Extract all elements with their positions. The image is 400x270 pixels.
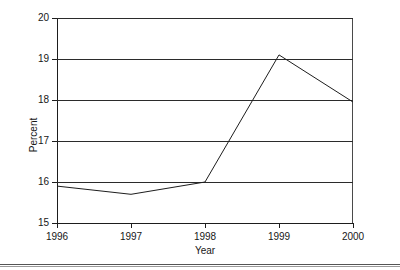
- y-tick-label-17: 17: [38, 136, 49, 146]
- x-tick-label-1996: 1996: [46, 232, 68, 242]
- line-chart-figure: Percent 151617181920 1996199719981999200…: [0, 0, 400, 270]
- series-percent-line: [57, 55, 353, 194]
- plot-area: 151617181920 19961997199819992000: [57, 18, 353, 223]
- x-tick-label-1999: 1999: [268, 232, 290, 242]
- x-tick-1997: [131, 223, 132, 228]
- x-tick-2000: [353, 223, 354, 228]
- y-tick-label-16: 16: [38, 177, 49, 187]
- y-tick-label-15: 15: [38, 218, 49, 228]
- y-tick-label-20: 20: [38, 13, 49, 23]
- x-tick-1996: [57, 223, 58, 228]
- y-tick-label-19: 19: [38, 54, 49, 64]
- x-axis-title: Year: [57, 246, 353, 256]
- x-tick-1999: [279, 223, 280, 228]
- page-divider-rule: [0, 264, 400, 265]
- x-tick-1998: [205, 223, 206, 228]
- y-tick-label-18: 18: [38, 95, 49, 105]
- x-tick-label-1998: 1998: [194, 232, 216, 242]
- x-tick-label-2000: 2000: [342, 232, 364, 242]
- x-tick-label-1997: 1997: [120, 232, 142, 242]
- page-divider-rule-shadow: [0, 266, 400, 267]
- data-line-svg: [57, 18, 353, 223]
